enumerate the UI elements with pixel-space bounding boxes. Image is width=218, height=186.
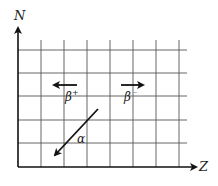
y-axis-label: N	[13, 8, 26, 23]
nz-diagram: N Z β+ β− α	[0, 0, 218, 186]
alpha-label: α	[77, 132, 85, 146]
grid	[18, 40, 187, 167]
beta-plus-label: β+	[64, 88, 79, 104]
x-axis-label: Z	[198, 159, 209, 174]
beta-minus-label: β−	[123, 88, 138, 104]
axes	[18, 28, 196, 167]
